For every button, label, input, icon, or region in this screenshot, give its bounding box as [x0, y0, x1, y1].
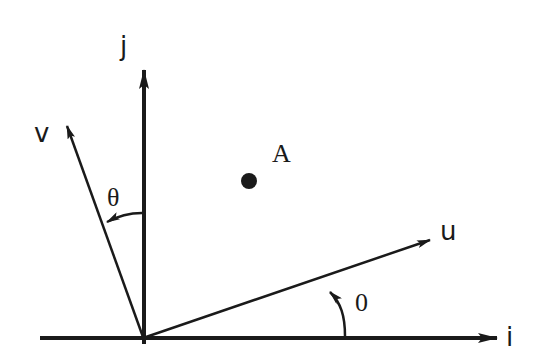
- i-axis-label: i: [506, 322, 513, 352]
- v-vector-label: v: [34, 118, 49, 148]
- u-vector: u: [146, 216, 456, 337]
- j-axis: j: [119, 31, 144, 344]
- point-a-dot: [241, 173, 257, 189]
- i-axis: i: [40, 322, 513, 352]
- angle-u-label: 0: [355, 288, 368, 317]
- point-a-label: A: [272, 139, 291, 168]
- angle-arc-u: [330, 292, 345, 336]
- rotated-frame-diagram: i j u v 0 θ A: [0, 0, 538, 363]
- v-vector-line: [67, 126, 143, 337]
- angle-arc-v: [107, 213, 142, 222]
- angle-u-from-i: 0: [330, 288, 368, 336]
- v-vector: v: [34, 118, 143, 337]
- u-vector-line: [146, 240, 430, 337]
- angle-v-from-j: θ: [107, 183, 142, 222]
- u-vector-label: u: [440, 216, 456, 246]
- angle-v-label: θ: [107, 183, 119, 212]
- point-a: A: [241, 139, 291, 189]
- j-axis-label: j: [119, 31, 127, 61]
